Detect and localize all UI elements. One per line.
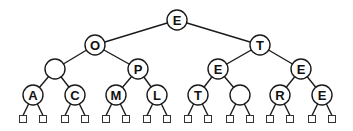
tree-nodes: EOTPEEACMLTRE (23, 10, 332, 105)
external-node-square (62, 116, 69, 123)
external-node-square (40, 116, 47, 123)
external-node-square (20, 116, 27, 123)
external-node-square (164, 116, 171, 123)
node-label: P (134, 62, 143, 77)
external-node-square (144, 116, 151, 123)
node-label: E (214, 62, 223, 77)
tree-node-empty (45, 59, 65, 79)
external-node-square (227, 116, 234, 123)
node-label: E (318, 88, 327, 103)
tree-edge (95, 20, 177, 45)
external-node-square (329, 116, 336, 123)
node-circle (45, 59, 65, 79)
external-node-square (287, 116, 294, 123)
tree-node-empty (230, 85, 250, 105)
tree-node-p: P (128, 59, 148, 79)
node-label: A (28, 88, 38, 103)
node-label: M (111, 88, 122, 103)
tree-node-l: L (147, 85, 167, 105)
tree-node-t: T (250, 35, 270, 55)
node-label: C (70, 88, 80, 103)
node-label: E (297, 62, 306, 77)
node-circle (230, 85, 250, 105)
external-node-square (123, 116, 130, 123)
node-label: R (275, 88, 285, 103)
tree-node-e: E (208, 59, 228, 79)
tree-node-e: E (167, 10, 187, 30)
node-label: L (153, 88, 161, 103)
node-label: T (256, 38, 264, 53)
external-node-square (267, 116, 274, 123)
external-leaf-nodes (20, 116, 336, 123)
tree-node-o: O (85, 35, 105, 55)
node-label: T (194, 88, 202, 103)
external-node-square (309, 116, 316, 123)
tree-node-a: A (23, 85, 43, 105)
tree-node-c: C (65, 85, 85, 105)
tree-edge (177, 20, 260, 45)
tree-diagram: EOTPEEACMLTRE (0, 0, 353, 131)
external-node-square (103, 116, 110, 123)
node-label: E (173, 13, 182, 28)
tree-node-r: R (270, 85, 290, 105)
node-label: O (90, 38, 100, 53)
tree-edges (33, 20, 322, 95)
tree-node-t: T (188, 85, 208, 105)
external-node-square (247, 116, 254, 123)
tree-node-e: E (291, 59, 311, 79)
external-node-square (185, 116, 192, 123)
tree-node-m: M (106, 85, 126, 105)
external-node-square (205, 116, 212, 123)
tree-node-e: E (312, 85, 332, 105)
external-node-square (82, 116, 89, 123)
